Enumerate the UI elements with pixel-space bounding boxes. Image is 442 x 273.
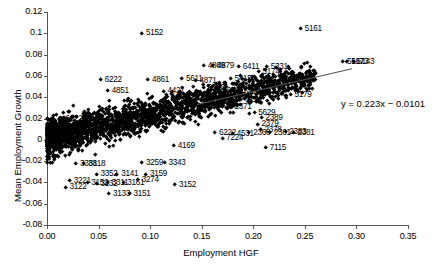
data-point-label: 4861 [152,75,169,84]
scatter-chart: Mean Employment Growth 0.120.10.080.060.… [0,0,442,273]
data-point-label: 4851 [112,86,129,95]
data-point-label: 6222 [219,128,236,137]
data-point-label: 5331 [271,62,288,71]
x-axis-title: Employment HGF [0,247,442,258]
data-point-label: 3122 [70,182,87,191]
data-point-label: 3274 [142,175,159,184]
trendline-equation: y = 0.223x − 0.0101 [341,98,425,109]
data-point-label: 3381 [80,159,97,168]
data-point-label: 6411 [243,62,259,71]
data-point-label: 5415 [235,74,252,83]
data-point-label: 6222 [105,75,122,84]
data-point-label: 2381 [298,128,315,137]
data-point-label: 5161 [305,24,322,33]
labeled-data-points: 5152516162224851486144216112486948795611… [0,0,442,273]
data-point-label: 3311 [112,178,128,187]
data-point-label: 6112 [177,91,193,100]
data-point-label: 2361 [274,128,291,137]
data-point-label: 3343 [169,158,186,167]
data-point-label: 3151 [134,189,151,198]
data-point-label: 3133 [113,189,130,198]
data-point-label: 2368 [253,128,270,137]
data-point-label: 7115 [270,143,286,152]
data-point-label: 5143 [357,57,374,66]
data-point-label: 5152 [146,28,163,37]
data-point-label: 4879 [217,61,234,70]
data-point-label: 5179 [294,90,311,99]
data-point-label: 3259 [146,158,163,167]
data-point-label: 4169 [178,141,195,150]
data-point-label: 3152 [179,180,196,189]
data-point-label: 2371 [235,102,252,111]
data-point-label: 6222 [65,114,82,123]
